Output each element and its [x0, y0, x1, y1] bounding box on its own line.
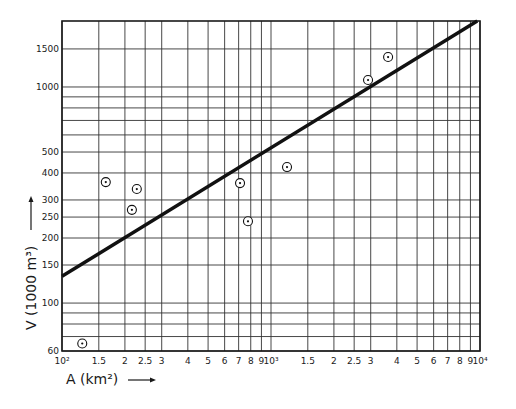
dot-marker-icon	[387, 56, 389, 58]
y-tick-label: 1000	[36, 82, 59, 92]
y-tick-label: 300	[42, 195, 59, 205]
x-tick-label: 7	[445, 356, 451, 366]
x-tick-label: 3	[159, 356, 165, 366]
x-tick-label: 6	[431, 356, 437, 366]
y-tick-label: 250	[42, 212, 59, 222]
data-point	[243, 217, 252, 226]
data-point	[132, 185, 141, 194]
x-tick-label: 3	[368, 356, 374, 366]
dot-marker-icon	[286, 166, 288, 168]
x-tick-label: 8	[248, 356, 254, 366]
x-tick-label: 10⁴	[472, 356, 487, 366]
x-tick-label: 6	[222, 356, 228, 366]
dot-marker-icon	[105, 181, 107, 183]
x-tick-label: 5	[205, 356, 211, 366]
x-axis-title: A (km²)	[66, 371, 118, 387]
x-tick-label: 1.5	[301, 356, 315, 366]
y-tick-label: 500	[42, 147, 59, 157]
x-tick-label: 10²	[54, 356, 69, 366]
y-axis-ticks: 6010015020025030040050010001500	[36, 44, 59, 356]
dot-marker-icon	[81, 342, 83, 344]
y-axis-title: V (1000 m³)	[23, 246, 39, 330]
x-tick-label: 10³	[263, 356, 278, 366]
x-tick-label: 1.5	[92, 356, 106, 366]
y-tick-label: 100	[42, 298, 59, 308]
dot-marker-icon	[247, 220, 249, 222]
x-arrow-icon	[150, 378, 156, 383]
data-point	[78, 339, 87, 348]
x-tick-label: 8	[457, 356, 463, 366]
x-tick-label: 5	[414, 356, 420, 366]
x-tick-label: 2.5	[138, 356, 152, 366]
data-point	[364, 76, 373, 85]
x-tick-label: 2.5	[347, 356, 361, 366]
y-tick-label: 60	[48, 346, 60, 356]
data-point	[127, 205, 136, 214]
x-axis-label: A (km²)	[66, 371, 156, 387]
x-axis-ticks: 10²1.522.5345678910³1.522.5345678910⁴	[54, 356, 487, 366]
x-tick-label: 2	[122, 356, 128, 366]
x-tick-label: 7	[236, 356, 242, 366]
y-tick-label: 200	[42, 233, 59, 243]
data-point	[283, 163, 292, 172]
x-tick-label: 4	[394, 356, 400, 366]
log-log-chart: 10²1.522.5345678910³1.522.5345678910⁴ 60…	[0, 0, 516, 409]
y-tick-label: 1500	[36, 44, 59, 54]
dot-marker-icon	[367, 79, 369, 81]
data-point	[236, 179, 245, 188]
data-point	[101, 178, 110, 187]
y-axis-label: V (1000 m³)	[23, 196, 39, 330]
dot-marker-icon	[131, 209, 133, 211]
dot-marker-icon	[136, 188, 138, 190]
dot-marker-icon	[239, 182, 241, 184]
x-tick-label: 2	[331, 356, 337, 366]
data-point	[384, 53, 393, 62]
x-tick-label: 4	[185, 356, 191, 366]
y-tick-label: 150	[42, 260, 59, 270]
grid	[62, 21, 480, 351]
y-tick-label: 400	[42, 168, 59, 178]
y-arrow-icon	[29, 196, 34, 202]
